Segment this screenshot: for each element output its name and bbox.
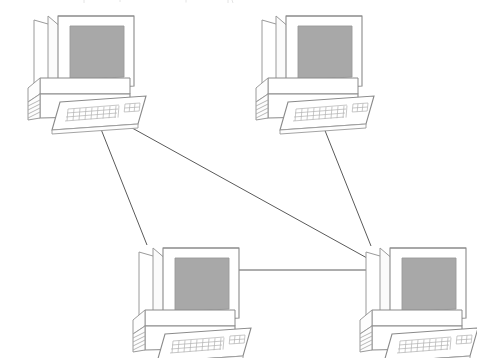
diagram-canvas: Computer network topology diagram Comput… <box>0 0 477 358</box>
node-bottom-right[interactable] <box>360 248 477 358</box>
node-top-right[interactable] <box>256 16 374 134</box>
node-bottom-left[interactable] <box>133 248 251 358</box>
top-edge-text-artifact <box>84 0 233 3</box>
network-nodes <box>28 16 477 358</box>
network-links <box>93 108 371 270</box>
node-top-left[interactable] <box>28 16 146 134</box>
network-diagram <box>0 0 477 358</box>
